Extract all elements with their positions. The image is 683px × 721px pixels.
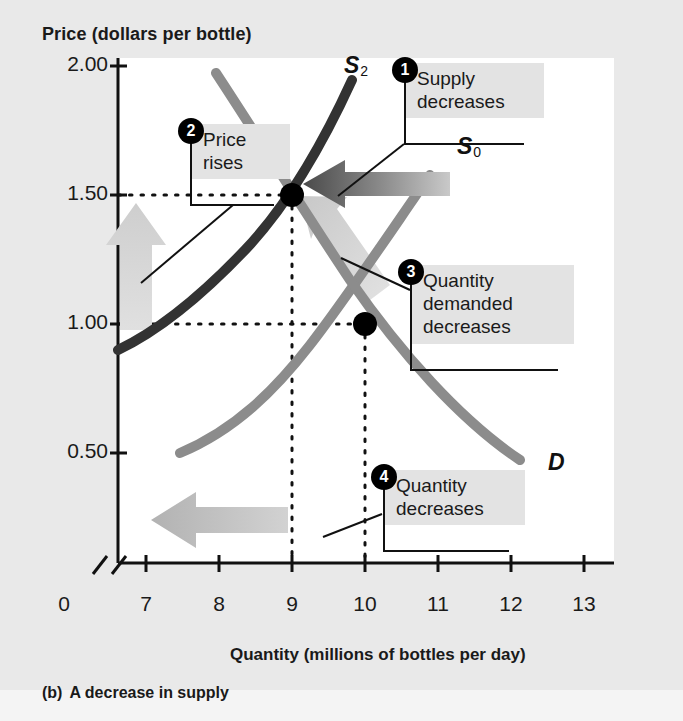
figure-panel: Price (dollars per bottle) 2.00 1.50 1.0… (0, 0, 683, 721)
callout-badge-4: 4 (371, 464, 397, 490)
callout-text-3: Quantity demanded decreases (412, 265, 574, 344)
callout-rule-bottom-4 (383, 550, 509, 552)
callout-rule-bottom-2 (190, 204, 274, 206)
callout-badge-3: 3 (398, 259, 424, 285)
equilibrium-dot-original (353, 312, 377, 336)
chart-svg (0, 0, 683, 721)
callout-text-2: Price rises (192, 124, 290, 179)
axis-break-mark-1 (93, 556, 107, 574)
curve-label-s2-text: S (344, 52, 359, 78)
curve-label-s0-sub: 0 (473, 144, 481, 160)
equilibrium-dot-new (280, 183, 304, 207)
callout-badge-1: 1 (392, 57, 418, 83)
curve-label-d: D (548, 449, 565, 476)
callout-text-1: Supply decreases (406, 63, 544, 118)
curve-label-s0: S0 (457, 133, 480, 160)
callout-badge-2: 2 (178, 118, 204, 144)
curve-label-s2: S2 (344, 52, 367, 79)
price-rise-arrow (106, 203, 166, 330)
quantity-decrease-arrow (151, 492, 288, 548)
curve-label-d-text: D (548, 449, 565, 475)
callout-text-4: Quantity decreases (385, 470, 525, 525)
curve-label-s0-text: S (457, 133, 472, 159)
leader-line-4 (323, 514, 382, 537)
curve-label-s2-sub: 2 (360, 63, 368, 79)
callout-rule-bottom-3 (410, 369, 558, 371)
callout-rule-left-3 (410, 272, 412, 370)
callout-rule-bottom-1 (404, 143, 524, 145)
